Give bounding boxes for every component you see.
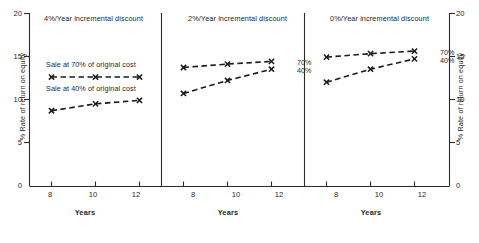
series-line-40-panel3 bbox=[327, 59, 415, 82]
figure-root: % Rate of return on equity % Rate of ret… bbox=[0, 0, 479, 243]
axes-layer bbox=[30, 13, 450, 187]
data-point-marker bbox=[412, 56, 417, 61]
data-point-marker bbox=[269, 67, 274, 72]
plot-canvas bbox=[0, 0, 479, 243]
x-ticks-layer bbox=[52, 182, 415, 187]
series-line-40-panel1 bbox=[52, 100, 140, 110]
data-point-marker bbox=[137, 98, 142, 103]
series-layer bbox=[49, 48, 417, 113]
